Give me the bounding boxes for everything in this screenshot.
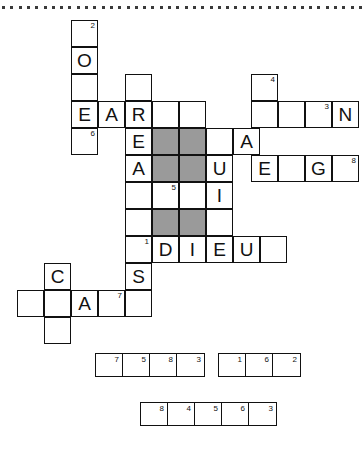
clue-number: 1 bbox=[145, 237, 149, 247]
crossword-letter: C bbox=[45, 264, 70, 289]
answer-cell[interactable]: 3 bbox=[177, 354, 204, 376]
crossword-cell[interactable]: D bbox=[152, 236, 179, 263]
crossword-cell[interactable]: 6 bbox=[71, 128, 98, 155]
crossword-cell[interactable]: 7 bbox=[98, 290, 125, 317]
crossword-letter: O bbox=[72, 48, 97, 73]
crossword-cell[interactable] bbox=[206, 209, 233, 236]
crossword-grid: 2O4EAR3N6EAAUEG85I1DIEUCSA7 bbox=[0, 0, 363, 340]
crossword-cell[interactable] bbox=[44, 290, 71, 317]
crossword-letter: E bbox=[207, 237, 232, 262]
crossword-cell[interactable]: E bbox=[206, 236, 233, 263]
crossword-cell[interactable]: 8 bbox=[332, 155, 359, 182]
crossword-cell[interactable] bbox=[71, 74, 98, 101]
crossword-cell[interactable] bbox=[260, 236, 287, 263]
crossword-cell[interactable]: E bbox=[251, 155, 278, 182]
answer-cell-number: 4 bbox=[187, 404, 191, 414]
crossword-cell[interactable] bbox=[278, 101, 305, 128]
crossword-cell-blocked bbox=[152, 128, 179, 155]
crossword-cell[interactable] bbox=[125, 209, 152, 236]
crossword-cell[interactable] bbox=[125, 74, 152, 101]
crossword-cell[interactable] bbox=[152, 101, 179, 128]
crossword-cell[interactable] bbox=[179, 182, 206, 209]
crossword-cell[interactable]: N bbox=[332, 101, 359, 128]
answer-cell[interactable]: 7 bbox=[96, 354, 123, 376]
answer-cell-number: 5 bbox=[142, 355, 146, 365]
answer-cell[interactable]: 2 bbox=[273, 354, 300, 376]
clue-number: 8 bbox=[352, 156, 356, 166]
clue-number: 2 bbox=[91, 21, 95, 31]
crossword-cell[interactable]: A bbox=[98, 101, 125, 128]
crossword-letter: S bbox=[126, 264, 151, 289]
crossword-letter: A bbox=[72, 291, 97, 316]
crossword-cell[interactable]: 1 bbox=[125, 236, 152, 263]
crossword-cell[interactable]: I bbox=[179, 236, 206, 263]
crossword-cell[interactable]: 3 bbox=[305, 101, 332, 128]
crossword-letter: D bbox=[153, 237, 178, 262]
crossword-letter: A bbox=[126, 156, 151, 181]
crossword-letter: R bbox=[126, 102, 151, 127]
answer-cell[interactable]: 5 bbox=[123, 354, 150, 376]
answer-cell[interactable]: 6 bbox=[222, 403, 249, 425]
answer-cell[interactable]: 8 bbox=[150, 354, 177, 376]
answer-cell[interactable]: 5 bbox=[195, 403, 222, 425]
crossword-cell[interactable]: U bbox=[206, 155, 233, 182]
answer-cell-number: 6 bbox=[265, 355, 269, 365]
crossword-cell[interactable]: S bbox=[125, 263, 152, 290]
crossword-letter: E bbox=[126, 129, 151, 154]
crossword-cell[interactable]: A bbox=[233, 128, 260, 155]
answer-cell-number: 1 bbox=[238, 355, 242, 365]
answer-cell[interactable]: 1 bbox=[219, 354, 246, 376]
crossword-cell[interactable]: I bbox=[206, 182, 233, 209]
crossword-cell[interactable]: G bbox=[305, 155, 332, 182]
crossword-letter: G bbox=[306, 156, 331, 181]
crossword-cell[interactable]: 5 bbox=[152, 182, 179, 209]
crossword-cell[interactable]: C bbox=[44, 263, 71, 290]
clue-number: 5 bbox=[172, 183, 176, 193]
crossword-cell[interactable]: E bbox=[71, 101, 98, 128]
answer-cell[interactable]: 3 bbox=[249, 403, 276, 425]
crossword-cell[interactable]: E bbox=[125, 128, 152, 155]
crossword-cell[interactable]: O bbox=[71, 47, 98, 74]
crossword-cell[interactable] bbox=[278, 155, 305, 182]
crossword-cell[interactable] bbox=[17, 290, 44, 317]
answer-cell-number: 8 bbox=[169, 355, 173, 365]
crossword-cell[interactable] bbox=[125, 290, 152, 317]
crossword-letter: E bbox=[72, 102, 97, 127]
crossword-letter: U bbox=[207, 156, 232, 181]
clue-number: 6 bbox=[91, 129, 95, 139]
answer-cell-number: 6 bbox=[241, 404, 245, 414]
answer-cell-number: 8 bbox=[160, 404, 164, 414]
answer-cell-number: 3 bbox=[269, 404, 273, 414]
answer-cell-number: 3 bbox=[197, 355, 201, 365]
answer-cell-number: 2 bbox=[293, 355, 297, 365]
answer-strip-1: 7583 bbox=[95, 353, 205, 377]
clue-number: 7 bbox=[118, 291, 122, 301]
crossword-cell[interactable] bbox=[206, 128, 233, 155]
crossword-cell-blocked bbox=[179, 209, 206, 236]
answer-cell[interactable]: 6 bbox=[246, 354, 273, 376]
crossword-letter: E bbox=[252, 156, 277, 181]
answer-cell-number: 5 bbox=[214, 404, 218, 414]
crossword-cell[interactable]: A bbox=[125, 155, 152, 182]
crossword-cell[interactable]: A bbox=[71, 290, 98, 317]
crossword-cell-blocked bbox=[179, 155, 206, 182]
crossword-cell-blocked bbox=[152, 155, 179, 182]
crossword-letter: A bbox=[234, 129, 259, 154]
answer-strip-2: 162 bbox=[218, 353, 301, 377]
answer-strips-container: 758316284563 bbox=[0, 340, 363, 449]
crossword-letter: I bbox=[207, 183, 232, 208]
crossword-letter: U bbox=[234, 237, 259, 262]
answer-cell[interactable]: 8 bbox=[141, 403, 168, 425]
crossword-letter: I bbox=[180, 237, 205, 262]
clue-number: 3 bbox=[325, 102, 329, 112]
crossword-cell[interactable] bbox=[179, 101, 206, 128]
answer-cell[interactable]: 4 bbox=[168, 403, 195, 425]
crossword-cell[interactable]: R bbox=[125, 101, 152, 128]
answer-strip-3: 84563 bbox=[140, 402, 277, 426]
crossword-cell[interactable] bbox=[125, 182, 152, 209]
crossword-cell[interactable] bbox=[251, 101, 278, 128]
crossword-cell[interactable]: 4 bbox=[251, 74, 278, 101]
crossword-cell[interactable]: 2 bbox=[71, 20, 98, 47]
answer-cell-number: 7 bbox=[115, 355, 119, 365]
crossword-cell[interactable]: U bbox=[233, 236, 260, 263]
